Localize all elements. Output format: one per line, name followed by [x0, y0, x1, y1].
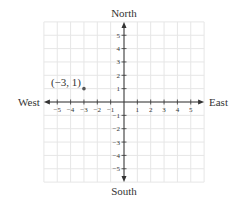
x-tick-label: 1: [136, 106, 140, 114]
y-tick-label: 3: [117, 58, 121, 66]
x-tick-label: −4: [67, 106, 75, 114]
east-label: East: [209, 96, 228, 108]
x-tick-label: −3: [80, 106, 88, 114]
y-tick-label: −3: [113, 139, 121, 147]
y-tick-label: 2: [117, 72, 121, 80]
point-label: (−3, 1): [51, 76, 81, 89]
south-arrow-icon: [122, 176, 127, 182]
x-tick-label: −5: [54, 106, 62, 114]
east-arrow-icon: [198, 100, 204, 105]
x-tick-label: 3: [162, 106, 166, 114]
y-tick-label: 1: [117, 85, 121, 93]
x-tick-label: 5: [189, 106, 193, 114]
y-tick-label: 5: [117, 32, 121, 40]
plotted-point: [82, 87, 86, 91]
west-label: West: [18, 96, 40, 108]
south-label: South: [111, 185, 137, 197]
west-arrow-icon: [44, 100, 50, 105]
coordinate-plane: −5−4−3−2−112345−5−4−3−2−112345 (−3, 1) N…: [0, 0, 242, 197]
axes: [44, 22, 204, 182]
y-tick-label: −5: [113, 165, 121, 173]
y-tick-label: −4: [113, 152, 121, 160]
y-tick-label: −1: [113, 112, 121, 120]
x-tick-label: 4: [176, 106, 180, 114]
x-tick-label: −2: [94, 106, 102, 114]
x-tick-label: 2: [149, 106, 153, 114]
north-arrow-icon: [122, 22, 127, 28]
y-tick-label: −2: [113, 125, 121, 133]
north-label: North: [111, 7, 137, 19]
y-tick-label: 4: [117, 45, 121, 53]
